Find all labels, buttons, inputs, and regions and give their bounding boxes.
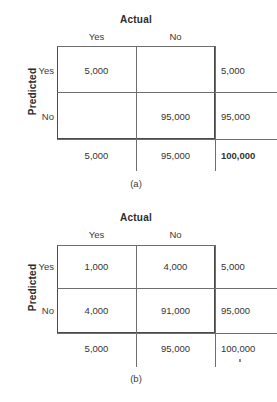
column-axis-title-b: Actual [57, 212, 215, 223]
column-header-yes-b: Yes [57, 229, 136, 240]
row-header-no-a: No [26, 111, 54, 122]
caption-b: (b) [57, 373, 215, 384]
cell-b-yes-yes: 1,000 [57, 261, 136, 272]
cell-a-yes-yes: 5,000 [57, 65, 136, 76]
row-header-no-b: No [26, 305, 54, 316]
grand-total-a: 100,000 [215, 150, 277, 161]
confusion-matrix-figure-a: Actual Yes No Predicted Yes No 5,000 5,0… [0, 0, 277, 200]
column-header-no-a: No [136, 31, 215, 42]
column-total-a-no: 95,000 [136, 150, 215, 161]
column-total-b-no: 95,000 [136, 343, 215, 354]
row-total-b-yes: 5,000 [215, 261, 277, 272]
column-header-yes-a: Yes [57, 31, 136, 42]
cell-b-no-no: 91,000 [136, 305, 215, 316]
cell-b-yes-no: 4,000 [136, 261, 215, 272]
matrix-rule-middle-b [57, 288, 277, 289]
row-total-a-yes: 5,000 [215, 65, 277, 76]
column-total-b-yes: 5,000 [57, 343, 136, 354]
row-total-b-no: 95,000 [215, 305, 277, 316]
confusion-matrix-figure-b: Actual Yes No Predicted Yes No 1,000 4,0… [0, 200, 277, 402]
matrix-rule-bottom-b [57, 333, 277, 334]
caption-a: (a) [57, 178, 215, 189]
column-total-a-yes: 5,000 [57, 150, 136, 161]
column-header-no-b: No [136, 229, 215, 240]
matrix-rule-bottom-a [57, 139, 277, 140]
cell-b-no-yes: 4,000 [57, 305, 136, 316]
scan-speck [239, 359, 241, 362]
matrix-rule-middle-a [57, 92, 277, 93]
row-total-a-no: 95,000 [215, 111, 277, 122]
cell-a-no-no: 95,000 [136, 111, 215, 122]
row-header-yes-a: Yes [26, 65, 54, 76]
column-axis-title-a: Actual [57, 14, 215, 25]
row-header-yes-b: Yes [26, 261, 54, 272]
grand-total-b: 100,000 [215, 343, 277, 354]
